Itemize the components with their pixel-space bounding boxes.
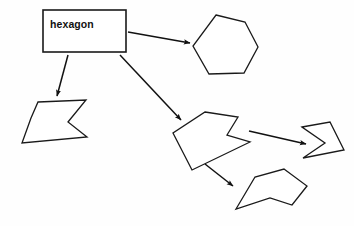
connector-center-to-right-shape bbox=[249, 131, 306, 144]
right-arrow-polygon bbox=[302, 122, 344, 158]
hexagon-shape bbox=[193, 15, 258, 74]
connector-box-to-center-shape bbox=[120, 55, 181, 120]
diagram-canvas: hexagon bbox=[0, 0, 354, 226]
connector-box-to-hexagon bbox=[128, 32, 190, 43]
hexagon-label-text: hexagon bbox=[50, 19, 94, 30]
hexagon-label-box bbox=[43, 10, 126, 52]
connector-box-to-left-shape bbox=[57, 55, 68, 96]
connector-center-to-bottom-shape bbox=[205, 164, 233, 186]
left-arrow-polygon bbox=[22, 100, 87, 143]
center-arrow-polygon bbox=[173, 112, 250, 170]
diagram-svg-layer bbox=[0, 0, 354, 226]
bottom-pentagon-polygon bbox=[236, 169, 307, 209]
